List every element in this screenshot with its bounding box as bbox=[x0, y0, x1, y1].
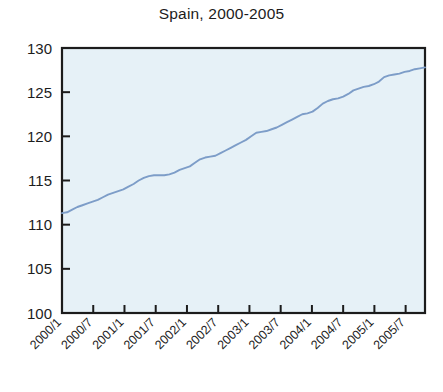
chart-container: Spain, 2000-2005 100105110115120125130 2… bbox=[0, 0, 443, 392]
y-tick-label: 110 bbox=[28, 216, 52, 233]
x-tick-label: 2001/7 bbox=[121, 315, 158, 352]
y-tick-label: 120 bbox=[27, 128, 52, 145]
y-tick-label: 105 bbox=[27, 260, 52, 277]
x-tick-label: 2003/1 bbox=[215, 315, 252, 352]
x-tick-label: 2005/7 bbox=[371, 315, 408, 352]
y-tick-label: 125 bbox=[27, 84, 52, 101]
x-tick-label: 2002/7 bbox=[183, 315, 220, 352]
x-tick-label: 2004/1 bbox=[277, 315, 314, 352]
x-tick-label: 2004/7 bbox=[308, 315, 345, 352]
line-chart: 100105110115120125130 2000/12000/72001/1… bbox=[0, 0, 443, 392]
x-tick-label: 2003/7 bbox=[246, 315, 283, 352]
y-tick-label: 100 bbox=[27, 305, 52, 322]
plot-background bbox=[62, 48, 425, 313]
x-tick-label: 2005/1 bbox=[340, 315, 377, 352]
y-axis-tick-labels: 100105110115120125130 bbox=[27, 40, 52, 322]
y-tick-label: 130 bbox=[27, 40, 52, 57]
x-tick-label: 2001/1 bbox=[90, 315, 127, 352]
y-tick-label: 115 bbox=[28, 172, 52, 189]
x-tick-label: 2002/1 bbox=[152, 315, 189, 352]
x-tick-label: 2000/7 bbox=[58, 315, 95, 352]
x-axis-tick-labels: 2000/12000/72001/12001/72002/12002/72003… bbox=[27, 315, 408, 352]
